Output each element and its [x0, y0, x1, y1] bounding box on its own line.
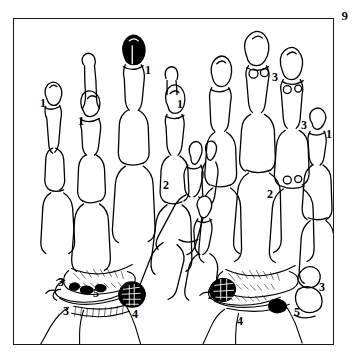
- callout-label: 1: [40, 97, 46, 109]
- callout-label: 4: [237, 315, 243, 327]
- callout-label: 3: [301, 119, 307, 131]
- illustration-frame: 1 1 1 1 2 3 5 3 4 3 3 1 2 3 5 4: [13, 18, 334, 345]
- callout-label: 1: [177, 98, 183, 110]
- hand-skeletons-illustration: [14, 19, 333, 344]
- callout-label: 2: [163, 179, 169, 191]
- callout-label: 3: [58, 276, 64, 288]
- callout-label: 3: [319, 281, 325, 293]
- figure-root: 9: [0, 0, 354, 360]
- callout-label: 1: [78, 115, 84, 127]
- callout-label: 3: [272, 71, 278, 83]
- callout-label: 3: [63, 305, 69, 317]
- callout-label: 2: [267, 188, 273, 200]
- callout-label: 1: [326, 128, 332, 140]
- callout-label: 5: [294, 306, 300, 318]
- callout-label: 4: [132, 308, 138, 320]
- callout-label: 5: [93, 287, 99, 299]
- plate-number: 9: [342, 9, 349, 22]
- callout-label: 1: [145, 64, 151, 76]
